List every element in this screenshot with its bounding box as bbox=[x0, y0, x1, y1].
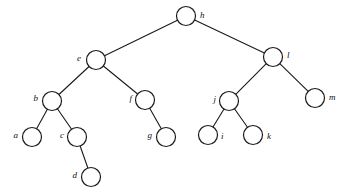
tree-node-j[interactable]: j bbox=[212, 92, 238, 111]
tree-edge-b-a bbox=[37, 109, 48, 128]
tree-canvas: helbfjmacgikd bbox=[0, 0, 347, 196]
tree-edge-f-g bbox=[150, 108, 162, 128]
node-circle-c[interactable] bbox=[68, 128, 87, 147]
tree-edge-e-b bbox=[59, 66, 89, 94]
node-label-l: l bbox=[287, 50, 290, 60]
node-circle-b[interactable] bbox=[43, 92, 62, 111]
tree-edge-j-i bbox=[213, 109, 224, 127]
node-circle-l[interactable] bbox=[264, 48, 283, 67]
tree-diagram-figure: helbfjmacgikd bbox=[0, 0, 347, 196]
tree-edge-c-d bbox=[80, 146, 88, 168]
tree-edge-b-c bbox=[57, 109, 71, 129]
node-label-g: g bbox=[148, 130, 153, 140]
node-label-e: e bbox=[77, 53, 81, 63]
node-circle-m[interactable] bbox=[306, 89, 325, 108]
tree-node-i[interactable]: i bbox=[199, 126, 225, 145]
node-label-h: h bbox=[200, 10, 205, 20]
node-circle-i[interactable] bbox=[199, 126, 218, 145]
tree-node-a[interactable]: a bbox=[14, 128, 42, 147]
tree-node-f[interactable]: f bbox=[129, 91, 154, 110]
node-circle-g[interactable] bbox=[157, 128, 176, 147]
node-circle-d[interactable] bbox=[82, 168, 101, 187]
tree-edge-h-e bbox=[105, 20, 178, 56]
tree-edge-l-m bbox=[280, 64, 308, 92]
node-circle-a[interactable] bbox=[23, 128, 42, 147]
node-label-m: m bbox=[329, 92, 336, 102]
tree-edge-h-l bbox=[195, 20, 265, 53]
tree-edge-l-j bbox=[236, 64, 267, 95]
tree-node-k[interactable]: k bbox=[244, 126, 273, 145]
node-circle-k[interactable] bbox=[244, 126, 263, 145]
tree-node-l[interactable]: l bbox=[264, 48, 291, 67]
node-label-b: b bbox=[34, 93, 39, 103]
tree-node-m[interactable]: m bbox=[306, 89, 337, 108]
node-label-d: d bbox=[73, 170, 78, 180]
tree-node-b[interactable]: b bbox=[34, 92, 62, 111]
node-circle-e[interactable] bbox=[87, 51, 106, 70]
node-label-c: c bbox=[60, 130, 64, 140]
tree-node-g[interactable]: g bbox=[148, 128, 176, 147]
node-circle-f[interactable] bbox=[136, 91, 155, 110]
node-circle-h[interactable] bbox=[177, 7, 196, 26]
node-label-i: i bbox=[221, 131, 224, 141]
tree-edge-e-f bbox=[103, 66, 137, 94]
tree-edge-j-k bbox=[234, 109, 247, 127]
node-circle-j[interactable] bbox=[220, 92, 239, 111]
tree-node-d[interactable]: d bbox=[73, 168, 101, 187]
node-layer: helbfjmacgikd bbox=[14, 7, 337, 187]
node-label-k: k bbox=[267, 131, 272, 141]
tree-node-c[interactable]: c bbox=[60, 128, 87, 147]
node-label-a: a bbox=[14, 130, 19, 140]
node-label-f: f bbox=[129, 93, 133, 103]
tree-node-e[interactable]: e bbox=[77, 51, 106, 70]
node-label-j: j bbox=[212, 94, 216, 104]
